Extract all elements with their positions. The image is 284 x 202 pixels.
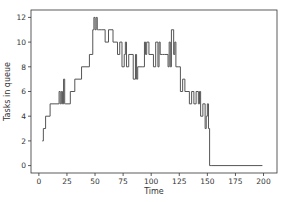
y-tick-label: 6 bbox=[21, 87, 26, 96]
x-axis: 0255075100125150175200 bbox=[36, 173, 270, 186]
y-tick-label: 10 bbox=[16, 38, 26, 47]
y-axis-label: Tasks in queue bbox=[3, 62, 12, 122]
series-line-queue bbox=[42, 17, 262, 165]
y-tick-label: 4 bbox=[21, 112, 26, 121]
x-tick-label: 75 bbox=[118, 177, 128, 186]
x-tick-label: 25 bbox=[62, 177, 72, 186]
y-tick-label: 2 bbox=[21, 137, 26, 146]
y-axis: 024681012 bbox=[16, 13, 31, 170]
y-tick-label: 0 bbox=[21, 161, 26, 170]
x-tick-label: 0 bbox=[36, 177, 41, 186]
x-axis-label: Time bbox=[143, 187, 164, 196]
y-tick-label: 12 bbox=[16, 13, 26, 22]
x-tick-label: 200 bbox=[256, 177, 271, 186]
x-tick-label: 100 bbox=[144, 177, 159, 186]
x-tick-label: 175 bbox=[228, 177, 243, 186]
axes-frame bbox=[31, 10, 277, 173]
plot-area bbox=[42, 17, 262, 165]
chart: 0255075100125150175200 024681012 Time Ta… bbox=[0, 0, 284, 202]
y-tick-label: 8 bbox=[21, 63, 26, 72]
x-tick-label: 125 bbox=[172, 177, 187, 186]
x-tick-label: 50 bbox=[90, 177, 100, 186]
x-tick-label: 150 bbox=[200, 177, 215, 186]
